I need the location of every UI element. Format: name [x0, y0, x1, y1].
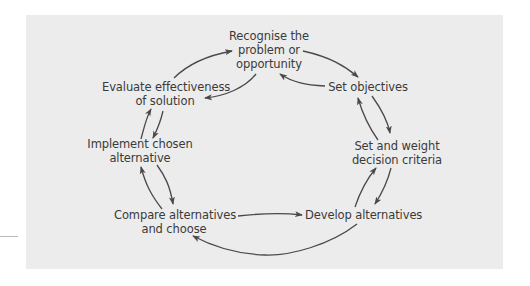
- node-evaluate: Evaluate effectiveness of solution: [102, 80, 228, 108]
- node-implement-line2: alternative: [86, 151, 194, 165]
- arrow-compare-to-develop: [238, 214, 302, 216]
- node-recognise-line3: opportunity: [228, 57, 310, 71]
- arrow-objectives-to-criteria: [372, 96, 390, 133]
- node-recognise: Recognise the problem or opportunity: [228, 29, 310, 71]
- node-criteria-line1: Set and weight: [345, 139, 449, 153]
- arrow-implement-to-evaluate: [141, 109, 151, 139]
- node-criteria: Set and weight decision criteria: [345, 139, 449, 167]
- node-recognise-line1: Recognise the: [228, 29, 310, 43]
- arrow-evaluate-to-recognise: [174, 51, 232, 78]
- node-objectives-line1: Set objectives: [328, 80, 408, 94]
- node-compare-line2: and choose: [114, 222, 234, 236]
- node-recognise-line2: problem or: [228, 43, 310, 57]
- arrow-evaluate-to-implement: [153, 111, 163, 138]
- arrow-compare-to-implement: [141, 167, 162, 209]
- arrow-objectives-to-recognise: [280, 74, 325, 86]
- arrow-criteria-to-objectives: [358, 98, 378, 140]
- node-compare: Compare alternatives and choose: [114, 208, 234, 236]
- node-criteria-line2: decision criteria: [345, 153, 449, 167]
- arrow-criteria-to-develop: [375, 168, 391, 204]
- node-evaluate-line2: of solution: [102, 94, 228, 108]
- arrow-develop-to-criteria: [355, 168, 376, 207]
- node-evaluate-line1: Evaluate effectiveness: [102, 80, 228, 94]
- node-implement-line1: Implement chosen: [86, 137, 194, 151]
- node-develop: Develop alternatives: [305, 208, 417, 222]
- node-objectives: Set objectives: [328, 80, 408, 94]
- node-develop-line1: Develop alternatives: [305, 208, 417, 222]
- node-implement: Implement chosen alternative: [86, 137, 194, 165]
- node-compare-line1: Compare alternatives: [114, 208, 234, 222]
- arrow-recognise-to-objectives: [303, 51, 358, 77]
- arrow-implement-to-compare: [157, 165, 173, 204]
